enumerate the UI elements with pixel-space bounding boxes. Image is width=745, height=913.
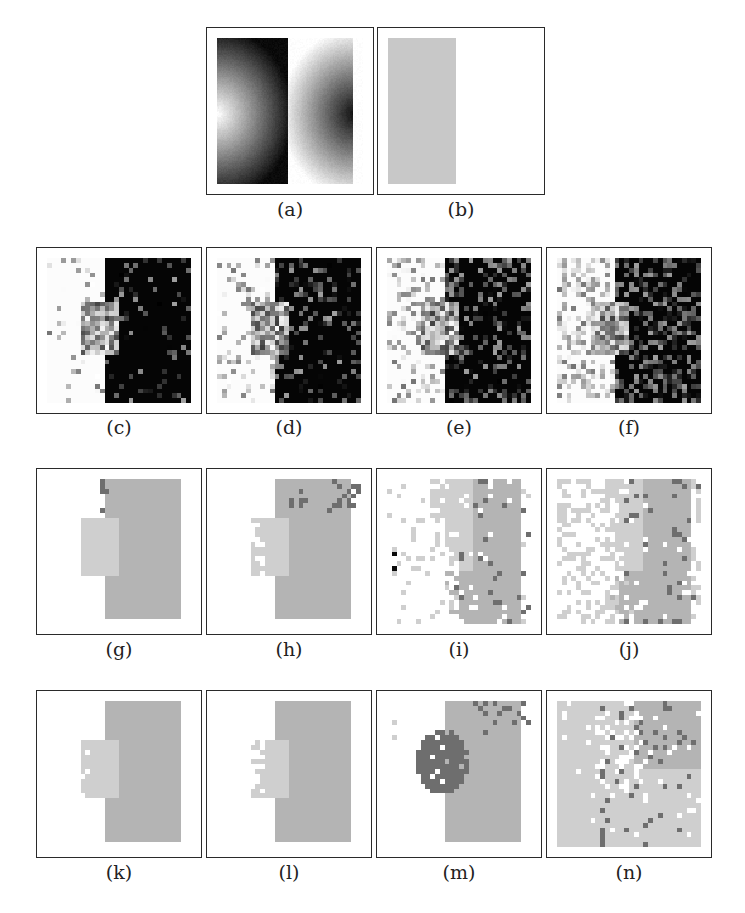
panel-image-k <box>47 701 191 847</box>
panel-k <box>36 690 202 858</box>
panel-m <box>376 690 542 858</box>
caption-g: (g) <box>36 638 202 660</box>
caption-m: (m) <box>376 861 542 883</box>
panel-image-d <box>217 258 361 403</box>
panel-c <box>36 247 202 414</box>
panel-i <box>376 468 542 635</box>
caption-k: (k) <box>36 861 202 883</box>
panel-b <box>377 27 545 195</box>
panel-image-m <box>387 701 531 847</box>
caption-n: (n) <box>546 861 712 883</box>
panel-image-n <box>557 701 701 847</box>
panel-image-b <box>388 38 534 184</box>
caption-b: (b) <box>377 198 545 220</box>
panel-image-e <box>387 258 531 403</box>
panel-j <box>546 468 712 635</box>
panel-d <box>206 247 372 414</box>
panel-image-j <box>557 479 701 624</box>
panel-g <box>36 468 202 635</box>
panel-image-h <box>217 479 361 624</box>
panel-image-g <box>47 479 191 624</box>
caption-l: (l) <box>206 861 372 883</box>
caption-c: (c) <box>36 416 202 438</box>
caption-f: (f) <box>546 416 712 438</box>
panel-image-i <box>387 479 531 624</box>
panel-l <box>206 690 372 858</box>
caption-h: (h) <box>206 638 372 660</box>
caption-e: (e) <box>376 416 542 438</box>
panel-a <box>206 27 374 195</box>
panel-image-f <box>557 258 701 403</box>
caption-a: (a) <box>206 198 374 220</box>
panel-f <box>546 247 712 414</box>
panel-e <box>376 247 542 414</box>
caption-i: (i) <box>376 638 542 660</box>
panel-image-c <box>47 258 191 403</box>
panel-image-a <box>217 38 363 184</box>
caption-d: (d) <box>206 416 372 438</box>
caption-j: (j) <box>546 638 712 660</box>
panel-image-l <box>217 701 361 847</box>
panel-h <box>206 468 372 635</box>
panel-n <box>546 690 712 858</box>
